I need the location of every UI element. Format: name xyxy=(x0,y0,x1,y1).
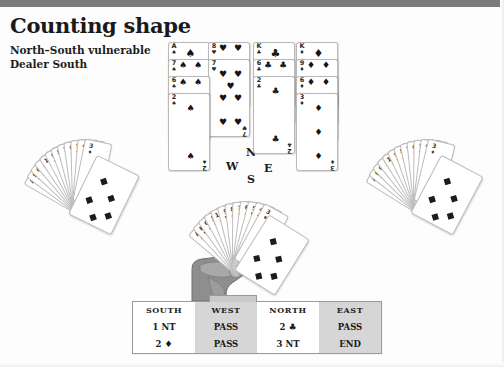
north-card: 7♥7♥♥♥♥♥♥♥♥ xyxy=(208,59,250,137)
card-pips: ♦♦♦ xyxy=(305,97,332,167)
north-card: 2♠2♠♠♠ xyxy=(168,93,210,171)
card-pips: ♦ xyxy=(305,46,332,60)
bid-cell: PASS xyxy=(319,319,381,336)
suit-pip: ♥ xyxy=(219,117,227,126)
bid-cell: 1 NT xyxy=(133,319,195,336)
suit-pip: ♥ xyxy=(226,82,234,91)
fan-card-rank: 3♦ xyxy=(85,142,96,156)
bid-cell: END xyxy=(319,336,381,353)
vulnerability-note: North–South vulnerable xyxy=(10,44,151,56)
bidding-table: SOUTH1 NT2 ♦WESTPASSPASSNORTH2 ♣3 NTEAST… xyxy=(132,301,382,354)
card-pips: ♣ xyxy=(262,46,289,60)
card-pips: ♠ xyxy=(177,46,204,60)
face-pip xyxy=(90,214,98,222)
card-pips: ♥♥♥♥♥♥♥ xyxy=(217,63,244,133)
suit-pip: ♦ xyxy=(314,104,322,113)
suit-pip: ♥ xyxy=(219,94,227,103)
page-edge-bottom xyxy=(0,362,504,367)
suit-pip: ♣ xyxy=(279,61,287,70)
page-title: Counting shape xyxy=(10,13,191,38)
suit-pip: ♦ xyxy=(314,49,324,58)
bid-column-header: NORTH xyxy=(257,302,319,319)
suit-pip: ♠ xyxy=(186,151,194,160)
fan-card-rank: 3♦ xyxy=(428,142,440,156)
bid-cell: 2 ♦ xyxy=(133,336,195,353)
suit-pip: ♥ xyxy=(234,94,242,103)
suit-pip: ♥ xyxy=(234,70,242,79)
compass-east: E xyxy=(264,162,272,175)
bid-cell: PASS xyxy=(195,336,257,353)
card-pips: ♣♣ xyxy=(262,80,289,150)
face-pip xyxy=(107,195,115,203)
face-pip xyxy=(275,256,282,263)
dealer-note: Dealer South xyxy=(10,58,87,70)
compass-south: S xyxy=(247,173,255,186)
bid-column-header: SOUTH xyxy=(133,302,195,319)
suit-pip: ♥ xyxy=(234,43,242,52)
face-pip xyxy=(104,212,112,220)
suit-pip: ♠ xyxy=(179,78,187,87)
face-pip xyxy=(270,273,277,280)
suit-pip: ♦ xyxy=(322,60,330,69)
bid-column-header: EAST xyxy=(319,302,381,319)
suit-pip: ♥ xyxy=(219,70,227,79)
suit-pip: ♦ xyxy=(307,78,315,87)
suit-pip: ♦ xyxy=(314,151,322,160)
bid-cell: 3 NT xyxy=(257,336,319,353)
suit-pip: ♥ xyxy=(234,117,242,126)
card-pips: ♠♠ xyxy=(177,63,204,77)
bid-column-header: WEST xyxy=(195,302,257,319)
face-pip xyxy=(270,238,277,245)
bid-column-east: EASTPASSEND xyxy=(319,302,381,353)
face-pip xyxy=(255,273,262,280)
suit-pip: ♥ xyxy=(219,43,227,52)
face-pip xyxy=(450,195,457,202)
suit-pip: ♠ xyxy=(194,78,202,87)
bid-column-west: WESTPASSPASS xyxy=(195,302,257,353)
page-edge-right xyxy=(500,0,504,367)
card-pips: ♦♦ xyxy=(305,63,332,77)
north-card: 3♦3♦♦♦♦ xyxy=(296,93,338,171)
face-pip xyxy=(444,177,451,184)
card-pips: ♠♠ xyxy=(177,97,204,167)
compass-west: W xyxy=(226,160,238,173)
bid-cell: 2 ♣ xyxy=(257,319,319,336)
bid-cell: PASS xyxy=(195,319,257,336)
suit-pip: ♣ xyxy=(271,87,279,96)
card-pips: ♥♥ xyxy=(217,46,244,60)
card-pips: ♦♦ xyxy=(305,80,332,94)
north-card: 2♣2♣♣♣ xyxy=(253,76,295,154)
face-pip xyxy=(432,213,439,220)
suit-pip: ♦ xyxy=(307,60,315,69)
face-pip xyxy=(254,255,261,262)
suit-pip: ♦ xyxy=(314,128,322,137)
suit-pip: ♣ xyxy=(271,134,279,143)
suit-pip: ♠ xyxy=(194,61,202,70)
suit-pip: ♦ xyxy=(322,78,330,87)
figure-page: Counting shape North–South vulnerable De… xyxy=(0,0,504,367)
face-pip xyxy=(100,177,108,185)
card-pips: ♣♣ xyxy=(262,63,289,77)
table-tab-notch xyxy=(209,295,257,302)
bid-column-south: SOUTH1 NT2 ♦ xyxy=(133,302,195,353)
face-pip xyxy=(429,196,436,203)
face-pip xyxy=(86,196,94,204)
face-pip xyxy=(447,212,454,219)
suit-pip: ♣ xyxy=(271,49,281,58)
suit-pip: ♣ xyxy=(264,61,272,70)
suit-pip: ♠ xyxy=(179,61,187,70)
card-pips: ♠♠ xyxy=(177,80,204,94)
bid-column-north: NORTH2 ♣3 NT xyxy=(257,302,319,353)
top-rule xyxy=(0,0,504,7)
suit-pip: ♠ xyxy=(186,104,194,113)
suit-pip: ♠ xyxy=(186,49,196,58)
